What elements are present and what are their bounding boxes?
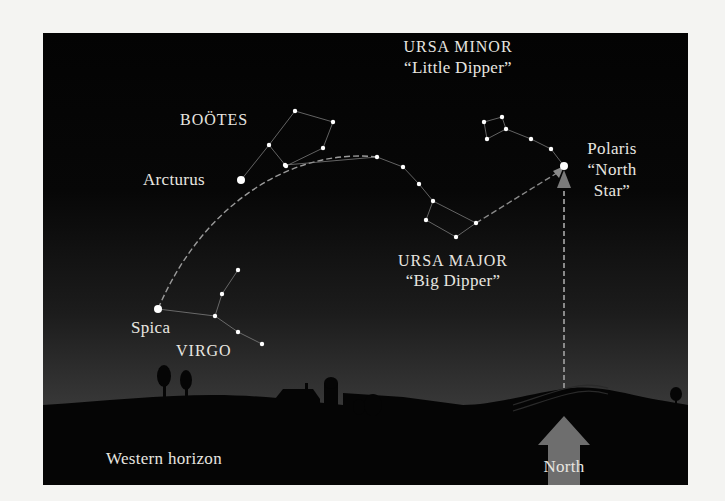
- constellation-stars: [154, 109, 568, 346]
- star-icon: [417, 182, 421, 186]
- ursa_major-line: [456, 223, 476, 237]
- star-icon: [293, 109, 297, 113]
- label-north: North: [534, 457, 594, 477]
- virgo-line: [215, 316, 238, 332]
- label-bootes: BOÖTES: [180, 110, 248, 130]
- bootes-line: [269, 111, 295, 145]
- bootes-line: [269, 145, 286, 166]
- virgo-line: [158, 309, 215, 316]
- star-icon: [549, 147, 553, 151]
- star-icon: [236, 330, 240, 334]
- star-icon: [220, 292, 224, 296]
- label-polaris: Polaris: [572, 139, 652, 159]
- ursa_major-line: [403, 167, 419, 184]
- label-north-star-2: Star”: [572, 181, 652, 201]
- ursa_minor-line: [484, 122, 487, 139]
- bootes-line: [241, 145, 269, 180]
- ursa_major-line: [426, 201, 433, 220]
- ursa_major-line: [377, 157, 403, 167]
- bright-star-icon: [237, 176, 245, 184]
- star-icon: [424, 218, 428, 222]
- star-icon: [321, 146, 325, 150]
- star-icon: [504, 127, 508, 131]
- star-icon: [401, 165, 405, 169]
- ursa_minor-line: [484, 117, 502, 122]
- label-north-star-1: “North: [572, 160, 652, 180]
- bright-star-icon: [154, 305, 162, 313]
- virgo-line: [238, 332, 262, 344]
- label-arcturus: Arcturus: [143, 170, 205, 190]
- label-little-dipper: “Little Dipper”: [383, 58, 533, 78]
- star-icon: [454, 235, 458, 239]
- ursa_major-line: [419, 184, 433, 201]
- label-ursa-major: URSA MAJOR: [378, 251, 528, 271]
- ursa_minor-line: [487, 129, 506, 139]
- sky-canvas: [43, 33, 688, 485]
- star-icon: [331, 120, 335, 124]
- star-icon: [213, 314, 217, 318]
- label-spica: Spica: [131, 318, 170, 338]
- virgo-line: [222, 270, 238, 294]
- star-icon: [482, 120, 486, 124]
- star-chart-frame: BOÖTES Arcturus URSA MINOR “Little Dippe…: [43, 33, 688, 485]
- barn-icon: [275, 383, 320, 429]
- star-icon: [474, 221, 478, 225]
- star-icon: [267, 143, 271, 147]
- star-icon: [284, 164, 288, 168]
- tree-icon: [157, 365, 192, 400]
- bootes-line: [323, 122, 333, 148]
- star-icon: [500, 115, 504, 119]
- bright-star-icon: [560, 162, 568, 170]
- star-icon: [375, 155, 379, 159]
- star-icon: [431, 199, 435, 203]
- star-icon: [485, 137, 489, 141]
- ursa_minor-line: [531, 139, 551, 149]
- label-big-dipper: “Big Dipper”: [378, 271, 528, 291]
- star-icon: [236, 268, 240, 272]
- label-ursa-minor: URSA MINOR: [383, 37, 533, 57]
- label-virgo: VIRGO: [176, 341, 232, 361]
- ursa_minor-line: [506, 129, 531, 139]
- virgo-line: [215, 294, 222, 316]
- star-icon: [260, 342, 264, 346]
- silo-icon: [324, 377, 338, 428]
- star-icon: [529, 137, 533, 141]
- ursa_major-line: [426, 220, 456, 237]
- pointer-to-polaris: [476, 166, 564, 223]
- label-western-horizon: Western horizon: [106, 449, 222, 469]
- constellation-lines: [158, 111, 564, 344]
- ursa_major-line: [433, 201, 476, 223]
- bootes-line: [295, 111, 333, 122]
